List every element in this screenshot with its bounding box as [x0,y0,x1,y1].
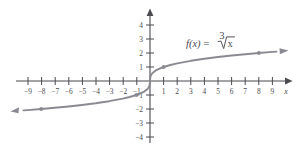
x-tick-label: −8 [38,87,46,96]
x-tick-label: 7 [243,87,247,96]
x-tick-label: 9 [271,87,275,96]
x-tick-label: 3 [189,87,193,96]
x-tick-label: 4 [203,87,207,96]
y-tick-label: −3 [135,119,143,128]
curve-point [135,93,139,97]
x-tick-label: 6 [230,87,234,96]
curve-left-arrowhead [11,107,20,113]
x-tick-label: −5 [78,87,86,96]
x-tick-label: −9 [24,87,32,96]
x-axis-name-label: x [283,87,288,96]
x-tick-label: −6 [65,87,73,96]
x-tick-label: −7 [51,87,59,96]
y-tick-label: 2 [139,49,143,58]
y-tick-label: 3 [139,35,143,44]
x-tick-label: −4 [92,87,100,96]
y-tick-label: −4 [135,133,143,142]
cube-root-function-plot: −9 −8 −7 −6 −5 −4 −3 −2 −1 1 2 3 4 5 6 7… [0,0,304,157]
function-label-equals: = [204,38,210,49]
curve-right-arrowhead [280,48,289,54]
y-tick-label: −2 [135,105,143,114]
curve-point [257,51,261,55]
y-tick-label: 1 [139,63,143,72]
function-label-args: (x) [189,38,201,50]
radical-radicand-label: x [228,38,234,49]
x-tick-label: 2 [175,87,179,96]
x-tick-label: 5 [216,87,220,96]
x-tick-label: −3 [106,87,114,96]
x-tick-label: −2 [119,87,127,96]
curve-point [162,65,166,69]
function-label: f(x)= 3 x [186,30,235,51]
x-tick-label: 8 [257,87,261,96]
radical-index-label: 3 [219,30,224,41]
x-tick-label: 1 [162,87,166,96]
svg-text:f(x)=: f(x)= [186,38,210,50]
curve-point [39,107,43,111]
y-tick-label: 4 [139,21,143,30]
y-axis-arrowhead [147,9,154,17]
figure-container: −9 −8 −7 −6 −5 −4 −3 −2 −1 1 2 3 4 5 6 7… [0,0,304,157]
x-axis-arrowhead [285,78,293,85]
